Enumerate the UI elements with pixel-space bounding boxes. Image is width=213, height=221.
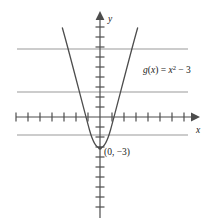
function-label: g(x) = x2 − 3 — [143, 64, 191, 76]
vertex-point-label: (0, −3) — [104, 147, 130, 158]
function-tail: − 3 — [176, 65, 191, 75]
gridlines — [17, 49, 188, 135]
y-axis-label: y — [107, 14, 113, 24]
function-equals: = — [158, 65, 168, 75]
graph-figure: y x g(x) = x2 − 3 (0, −3) — [0, 0, 213, 221]
vertex-point-marker — [98, 146, 102, 150]
x-axis-arrowhead — [191, 113, 200, 122]
x-axis-label: x — [195, 125, 201, 135]
coordinate-plane-svg: y x g(x) = x2 − 3 (0, −3) — [0, 0, 213, 221]
y-axis-arrowhead — [96, 11, 105, 20]
